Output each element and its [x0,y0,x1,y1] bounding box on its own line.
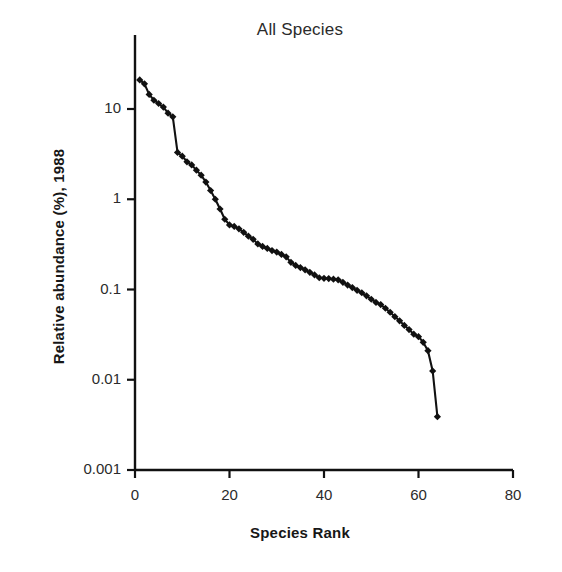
data-point-marker [429,367,436,374]
x-axis-tick-label: 20 [210,486,250,503]
y-axis-title: Relative abundance (%), 1988 [50,107,67,407]
x-axis-tick-label: 60 [399,486,439,503]
x-axis-tick-label: 0 [115,486,155,503]
data-point-marker [434,413,441,420]
x-axis-tick-label: 40 [304,486,344,503]
rank-abundance-figure: All Species 1010.10.010.001 020406080 Sp… [0,0,562,572]
x-axis-title: Species Rank [160,524,440,541]
y-axis-tick-label: 0.001 [41,460,121,477]
data-series-markers [136,76,441,420]
data-series-line [140,80,438,417]
axis-lines [135,35,513,470]
data-point-marker [216,205,223,212]
x-axis-ticks [135,470,513,478]
x-axis-tick-label: 80 [493,486,533,503]
